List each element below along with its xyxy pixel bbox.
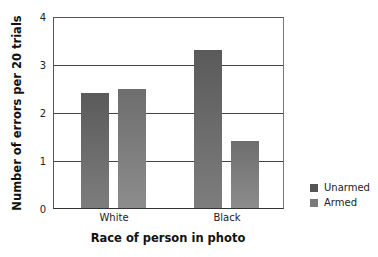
legend-item-unarmed: Unarmed bbox=[310, 180, 370, 195]
legend: Unarmed Armed bbox=[310, 180, 370, 210]
bar-black-armed bbox=[231, 141, 259, 208]
legend-label-unarmed: Unarmed bbox=[324, 182, 370, 193]
y-axis-label: Number of errors per 20 trials bbox=[10, 15, 24, 210]
bar-white-unarmed bbox=[81, 93, 109, 208]
gridline-3 bbox=[54, 65, 283, 66]
x-axis-label: Race of person in photo bbox=[91, 231, 246, 245]
y-tick-1: 1 bbox=[34, 156, 46, 167]
y-tick-2: 2 bbox=[34, 108, 46, 119]
y-tick-0: 0 bbox=[34, 204, 46, 215]
x-tick-white: White bbox=[99, 212, 128, 223]
legend-item-armed: Armed bbox=[310, 195, 370, 210]
x-tick-black: Black bbox=[213, 212, 240, 223]
legend-swatch-armed bbox=[310, 199, 318, 207]
bar-white-armed bbox=[118, 89, 146, 208]
y-tick-3: 3 bbox=[34, 60, 46, 71]
legend-label-armed: Armed bbox=[324, 197, 357, 208]
bar-black-unarmed bbox=[194, 50, 222, 208]
y-tick-4: 4 bbox=[34, 12, 46, 23]
legend-swatch-unarmed bbox=[310, 184, 318, 192]
plot-area bbox=[53, 17, 284, 209]
